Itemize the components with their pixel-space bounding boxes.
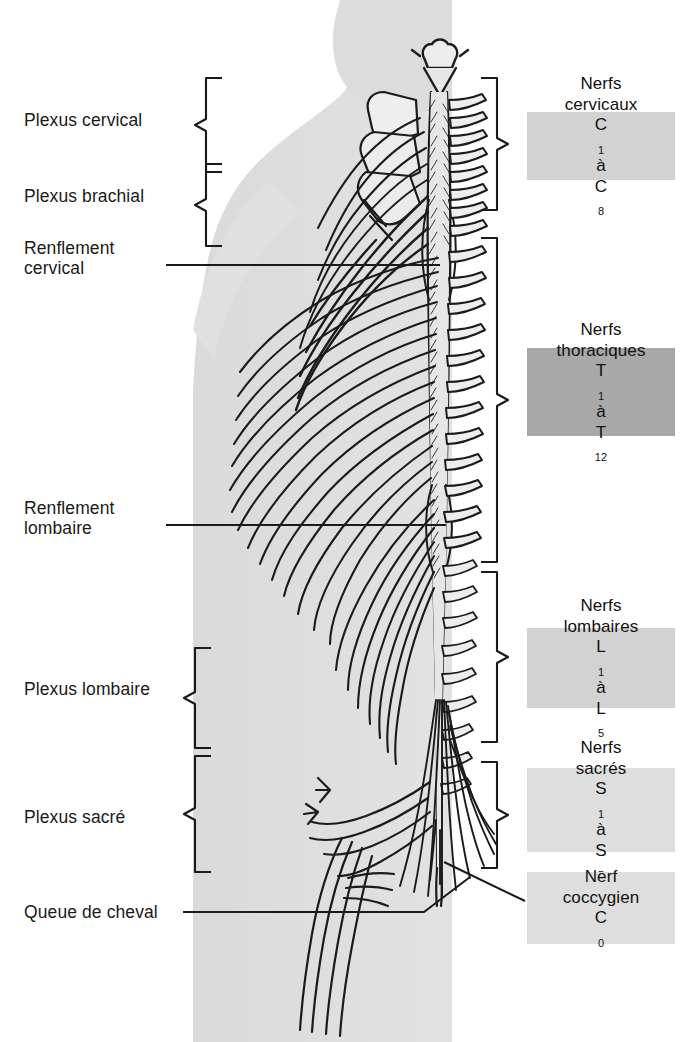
bracket-nerfs-cervicaux [477, 74, 511, 214]
box-range: T1 à T12 [557, 361, 646, 464]
box-nerf-coccygien: Nerf coccygien C0 [527, 872, 675, 944]
bracket-nerfs-lombaires [477, 568, 511, 746]
bracket-plexus-cervical [192, 76, 226, 174]
cervical-plexus-nerves [300, 118, 427, 348]
box-range: C1 à C8 [565, 115, 638, 218]
cauda-equina [400, 700, 496, 896]
box-line-1: Nerfs [557, 320, 646, 341]
box-line-2: lombaires [564, 617, 639, 638]
cervical-nerve-roots-right [449, 94, 487, 236]
box-line-2: sacrés [576, 759, 627, 780]
label-plexus-sacre: Plexus sacré [24, 807, 125, 827]
box-line-1: Nerfs [565, 74, 638, 95]
box-range: C0 [563, 908, 640, 949]
leader-queue-de-cheval [183, 877, 470, 912]
brachial-plexus-nerves [296, 196, 428, 410]
bracket-plexus-sacre [181, 754, 215, 874]
box-line-1: Nerfs [576, 738, 627, 759]
brainstem [412, 40, 468, 97]
bracket-nerfs-thoraciques [477, 234, 511, 566]
box-range: L1 à L5 [564, 637, 639, 740]
box-nerfs-cervicaux: Nerfs cervicaux C1 à C8 [527, 112, 675, 180]
sacral-plexus [300, 778, 432, 1036]
label-plexus-lombaire: Plexus lombaire [24, 679, 150, 699]
lumbar-plexus-nerves [336, 500, 434, 764]
bracket-plexus-lombaire [181, 646, 215, 750]
label-plexus-cervical: Plexus cervical [24, 110, 142, 130]
box-line-2: coccygien [563, 888, 640, 909]
bracket-plexus-brachial [192, 162, 226, 248]
box-line-1: Nerf [563, 867, 640, 888]
anatomical-figure: Plexus cervical Plexus brachial Renfleme… [0, 0, 691, 1042]
spinal-cord-shaft [428, 92, 437, 868]
leader-nerf-coccygien [444, 862, 525, 901]
box-line-2: thoraciques [557, 341, 646, 362]
label-queue-de-cheval: Queue de cheval [24, 902, 158, 922]
box-nerfs-lombaires: Nerfs lombaires L1 à L5 [527, 628, 675, 708]
label-renflement-lombaire: Renflement lombaire [24, 498, 115, 538]
conus-medullaris [436, 868, 442, 906]
dorsal-rootlets [429, 100, 450, 578]
label-plexus-brachial: Plexus brachial [24, 186, 144, 206]
box-line-2: cervicaux [565, 95, 638, 116]
thoracic-nerve-roots-right [444, 246, 486, 548]
bracket-nerfs-sacres [477, 758, 511, 872]
box-line-1: Nerfs [564, 596, 639, 617]
cervical-vertebrae [358, 92, 420, 240]
intercostal-nerves [230, 258, 438, 644]
lumbar-sacral-roots-right [441, 560, 477, 794]
box-nerfs-thoraciques: Nerfs thoraciques T1 à T12 [527, 348, 675, 436]
box-nerfs-sacres: Nerfs sacrés S1 à S5 [527, 768, 675, 852]
label-renflement-cervical: Renflement cervical [24, 238, 115, 278]
